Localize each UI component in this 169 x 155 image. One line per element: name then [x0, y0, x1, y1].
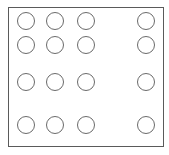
circle-pad-icon — [17, 116, 35, 134]
circle-pad-icon — [17, 36, 35, 54]
circle-pad-icon — [77, 73, 95, 91]
circle-pad-icon — [46, 12, 64, 30]
circle-pad-icon — [137, 73, 155, 91]
circle-pad-icon — [46, 116, 64, 134]
circle-pad-icon — [77, 116, 95, 134]
circle-pad-icon — [17, 73, 35, 91]
circle-pad-icon — [137, 12, 155, 30]
circle-pad-icon — [77, 12, 95, 30]
circle-pad-icon — [46, 73, 64, 91]
circle-pad-icon — [77, 36, 95, 54]
circle-pad-icon — [137, 116, 155, 134]
circle-pad-icon — [137, 36, 155, 54]
circle-pad-icon — [17, 12, 35, 30]
circle-pad-icon — [46, 36, 64, 54]
